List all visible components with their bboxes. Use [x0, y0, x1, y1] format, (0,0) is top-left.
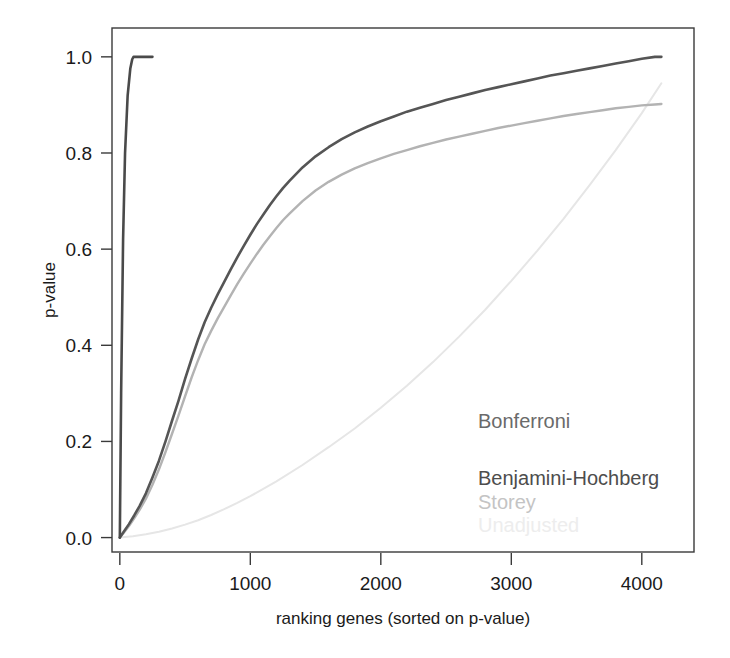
y-tick-label: 0.6 — [66, 239, 92, 260]
y-tick-label: 0.4 — [66, 335, 93, 356]
plot-background — [0, 0, 730, 658]
legend-label-storey: Storey — [478, 491, 536, 513]
x-tick-label: 2000 — [360, 573, 402, 594]
legend-label-benjamini-hochberg: Benjamini-Hochberg — [478, 467, 659, 489]
y-tick-label: 0.0 — [66, 528, 92, 549]
legend-label-unadjusted: Unadjusted — [478, 514, 579, 536]
y-tick-label: 0.2 — [66, 431, 92, 452]
pvalue-ranking-plot: 0.00.20.40.60.81.0 01000200030004000 p-v… — [0, 0, 730, 658]
x-tick-label: 3000 — [490, 573, 532, 594]
chart-page: 0.00.20.40.60.81.0 01000200030004000 p-v… — [0, 0, 730, 658]
legend-label-bonferroni: Bonferroni — [478, 410, 570, 432]
x-tick-label: 4000 — [621, 573, 663, 594]
y-tick-label: 0.8 — [66, 143, 92, 164]
y-tick-label: 1.0 — [66, 47, 92, 68]
x-tick-label: 0 — [115, 573, 126, 594]
y-axis-title: p-value — [40, 262, 59, 318]
x-axis-title: ranking genes (sorted on p-value) — [276, 609, 530, 628]
x-tick-label: 1000 — [229, 573, 271, 594]
